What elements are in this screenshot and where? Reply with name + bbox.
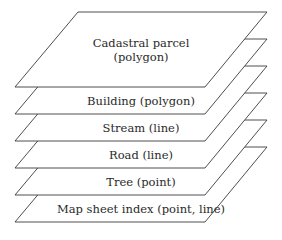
layer-label-cadastral-parcel: Cadastral parcel (polygon) (91, 36, 191, 64)
layer-label-cadastral-line1: Cadastral parcel (91, 36, 191, 50)
layer-label-cadastral-line2: (polygon) (91, 50, 191, 64)
layer-label-tree: Tree (point) (56, 175, 226, 189)
layer-label-map-sheet-index: Map sheet index (point, line) (36, 202, 246, 216)
layer-label-road: Road (line) (56, 148, 226, 162)
layer-label-stream: Stream (line) (56, 121, 226, 135)
layer-label-building: Building (polygon) (56, 94, 226, 108)
